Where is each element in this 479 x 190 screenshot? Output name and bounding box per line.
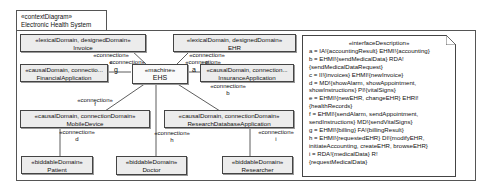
domain-doctor[interactable]: «biddableDomain» Doctor	[116, 156, 187, 175]
note-line: a = IA!{accountingResult} EHMI!{accounti…	[309, 47, 449, 55]
domain-name: Researcher	[223, 166, 292, 174]
note-line: f = EHMI!{sendAlarm, sendAppointment,	[309, 110, 449, 118]
connection-label-a-stereotype: «connection»	[178, 59, 228, 66]
note-fold-icon	[446, 35, 456, 45]
connection-label-g-stereotype: «connection»	[102, 59, 152, 66]
note-line: i = RDA!{medicalData} R!	[309, 150, 449, 158]
domain-name: Invoice	[21, 44, 145, 52]
note-stereotype: «interfaceDescription»	[309, 39, 449, 47]
domain-stereotype: «lexicalDomain, designedDomain»	[174, 35, 295, 44]
note-line: b = EHMI!{sendMedicalData} RDA!	[309, 55, 449, 63]
domain-stereotype: «biddableDomain»	[223, 157, 292, 166]
connection-label-g: g	[110, 66, 122, 73]
domain-name: Patient	[22, 166, 92, 174]
domain-mobile-device[interactable]: «causalDomain, connectionDomain» MobileD…	[20, 110, 150, 128]
connection-label-a: a	[190, 66, 198, 73]
domain-stereotype: «biddableDomain»	[22, 157, 92, 166]
machine-ehs[interactable]: «machine» EHS	[132, 64, 188, 84]
connection-label-f: «connection» f	[70, 97, 120, 108]
domain-invoice[interactable]: «lexicalDomain, designedDomain» Invoice	[20, 34, 146, 52]
machine-stereotype: «machine»	[133, 65, 187, 74]
domain-name: EHR	[174, 44, 295, 52]
machine-name: EHS	[133, 74, 187, 82]
note-line: d = MD!{showAlarm, showAppointment,	[309, 79, 449, 87]
domain-name: Doctor	[117, 166, 186, 174]
domain-stereotype: «causalDomain, connectio...	[21, 65, 107, 74]
domain-insurance-application[interactable]: «causalDomain, connection... InsuranceAp…	[200, 64, 294, 82]
note-line: {requestMedicalData}	[309, 158, 449, 166]
domain-stereotype: «causalDomain, connection...	[201, 65, 293, 74]
domain-stereotype: «causalDomain, connectionDomain»	[21, 111, 149, 120]
note-line: h = EHMI!{requestedEHR} DI!{modifyEHR,	[309, 134, 449, 142]
domain-researcher[interactable]: «biddableDomain» Researcher	[222, 156, 293, 174]
note-line: {sendMedicalDataRequest}	[309, 63, 449, 71]
note-line: c = II!{invoices} EHMI!{newInvoice}	[309, 71, 449, 79]
note-line: initiateAccounting, createEHR, browseEHR…	[309, 142, 449, 150]
domain-ehr[interactable]: «lexicalDomain, designedDomain» EHR	[173, 34, 296, 52]
connection-label-b: «connection» b	[203, 83, 253, 97]
domain-stereotype: «biddableDomain»	[117, 157, 186, 166]
note-line: sendInstructions} MD!{sendVitalSigns}	[309, 118, 449, 126]
domain-stereotype: «causalDomain, connectionDomain»	[165, 111, 293, 120]
note-line: showInstructions} PI!{vitalSigns}	[309, 86, 449, 94]
note-line: g = EHMI!{billing} FA!{billingResult}	[309, 126, 449, 134]
interface-description-note: «interfaceDescription» a = IA!{accountin…	[302, 35, 456, 177]
connection-label-h: «connection» h	[147, 130, 197, 144]
connection-label-i: «connection» i	[251, 129, 301, 143]
domain-research-database-application[interactable]: «causalDomain, connectionDomain» Researc…	[164, 110, 294, 128]
domain-patient[interactable]: «biddableDomain» Patient	[21, 156, 93, 174]
domain-financial-application[interactable]: «causalDomain, connectio... FinancialApp…	[20, 64, 108, 82]
domain-name: ResearchDatabaseApplication	[165, 120, 293, 128]
domain-name: InsuranceApplication	[201, 74, 293, 82]
note-line: {healthRecords}	[309, 102, 449, 110]
note-line: e = EHMI!{newEHR, changeEHR} EHRI!	[309, 94, 449, 102]
domain-stereotype: «lexicalDomain, designedDomain»	[21, 35, 145, 44]
domain-name: FinancialApplication	[21, 74, 107, 82]
domain-name: MobileDevice	[21, 120, 149, 128]
connection-label-d: «connection» d	[52, 129, 102, 143]
